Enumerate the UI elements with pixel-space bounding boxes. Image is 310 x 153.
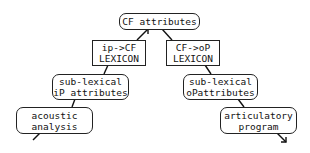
node-label: program [238,121,278,132]
node-label: sub-lexical [59,76,122,87]
node-sublexical-ip-attributes: sub-lexical iP attributes [52,74,129,100]
arrow-lexicon-to-cf [137,29,148,40]
node-acoustic-analysis: acoustic analysis [16,107,93,134]
node-label: acoustic [32,110,78,121]
link-sublex-ip-to-lexicon [104,65,108,74]
node-label: LEXICON [173,53,213,64]
node-label: CF attributes [122,16,196,27]
node-cf-attributes: CF attributes [119,13,200,30]
node-label: analysis [32,121,78,132]
link-sublex-op-to-articulatory [238,99,244,107]
node-label: LEXICON [99,53,139,64]
node-sublexical-op-attributes: sub-lexical oPattributes [183,74,258,100]
link-op-lexicon-to-sublex-op [205,65,211,74]
link-cf-to-op-lexicon [162,29,172,40]
node-cf-op-lexicon: CF->oP LEXICON [166,40,220,66]
node-label: iP attributes [53,87,127,98]
node-label: articulatory [224,110,293,121]
link-acoustic-to-sublex-ip [72,99,75,107]
node-articulatory-program: articulatory program [220,107,297,134]
node-label: ip->CF [102,42,136,53]
output-arrow [277,133,286,142]
input-line [33,133,40,140]
node-ip-cf-lexicon: ip->CF LEXICON [92,40,146,66]
node-label: CF->oP [176,42,210,53]
node-label: oPattributes [186,87,255,98]
node-label: sub-lexical [189,76,252,87]
